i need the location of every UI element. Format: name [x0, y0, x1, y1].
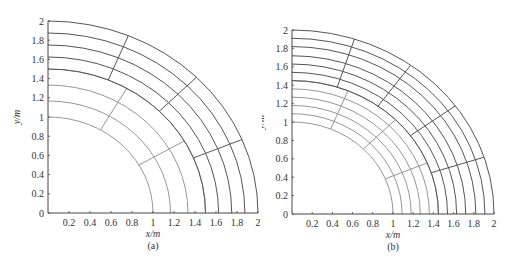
- y-tick-label: 0.8: [32, 131, 45, 142]
- x-tick-label: 0.2: [306, 218, 319, 229]
- outer-radial-line: [337, 39, 354, 87]
- x-tick-label: 0.4: [84, 217, 97, 228]
- x-tick-label: 2: [492, 218, 497, 229]
- panel-b-quarter-annulus-mesh: 0.20.40.60.811.21.41.61.8200.20.40.60.81…: [262, 0, 514, 265]
- y-tick-label: 1.2: [32, 92, 45, 103]
- x-tick-label: 1.6: [210, 217, 223, 228]
- inner-radial-line: [101, 88, 127, 130]
- inner-arc: [48, 117, 153, 213]
- y-tick-label: 2: [39, 16, 44, 27]
- outer-radial-line: [159, 77, 196, 111]
- x-tick-label: 1.4: [189, 217, 202, 228]
- outer-arc: [48, 21, 258, 213]
- y-tick-label: 0.8: [276, 135, 289, 146]
- y-tick-label: 1.8: [276, 43, 289, 54]
- outer-arc: [48, 33, 245, 213]
- y-tick-label: 1.6: [276, 61, 289, 72]
- outer-arc: [48, 45, 232, 213]
- y-tick-label: 0.2: [32, 188, 45, 199]
- x-tick-label: 0.4: [326, 218, 339, 229]
- y-tick-label: 2: [283, 25, 288, 36]
- y-tick-label: 0.4: [32, 169, 45, 180]
- y-axis-label: y/m: [262, 115, 266, 130]
- x-axis-label: x/m: [145, 228, 160, 239]
- x-axis-label: x/m: [385, 229, 400, 240]
- x-tick-label: 0.6: [346, 218, 359, 229]
- outer-radial-line: [378, 65, 411, 106]
- y-tick-label: 1: [39, 112, 44, 123]
- x-tick-label: 0.8: [126, 217, 139, 228]
- y-tick-label: 0: [283, 209, 288, 220]
- outer-radial-line: [410, 106, 455, 136]
- panel-a-quarter-annulus-mesh: 0.20.40.60.811.21.41.61.8200.20.40.60.81…: [0, 0, 262, 265]
- x-tick-label: 1: [151, 217, 156, 228]
- x-tick-label: 0.2: [63, 217, 76, 228]
- x-tick-label: 1.8: [468, 218, 481, 229]
- inner-arc: [48, 101, 171, 213]
- mesh-plot-b: 0.20.40.60.811.21.41.61.8200.20.40.60.81…: [262, 0, 514, 265]
- y-tick-label: 1.2: [276, 98, 289, 109]
- y-tick-label: 0.4: [276, 172, 289, 183]
- y-tick-label: 1: [283, 117, 288, 128]
- x-tick-label: 1.4: [427, 218, 440, 229]
- y-tick-label: 1.4: [276, 80, 289, 91]
- x-tick-label: 0.6: [105, 217, 118, 228]
- x-tick-label: 1.2: [407, 218, 420, 229]
- x-tick-label: 1.2: [168, 217, 181, 228]
- inner-radial-line: [363, 120, 395, 149]
- x-tick-label: 1: [391, 218, 396, 229]
- inner-arc: [292, 97, 420, 214]
- panel-caption: (a): [147, 240, 158, 252]
- x-tick-label: 0.8: [367, 218, 380, 229]
- outer-radial-line: [431, 157, 484, 173]
- y-tick-label: 1.6: [32, 54, 45, 65]
- x-tick-label: 1.6: [447, 218, 460, 229]
- y-tick-label: 0.2: [276, 190, 289, 201]
- y-axis-label: y/m: [11, 110, 22, 125]
- y-tick-label: 1.8: [32, 35, 45, 46]
- panel-caption: (b): [387, 241, 399, 253]
- inner-radial-line: [139, 141, 184, 165]
- x-tick-label: 2: [256, 217, 261, 228]
- mesh-plot-a: 0.20.40.60.811.21.41.61.8200.20.40.60.81…: [0, 0, 262, 265]
- y-tick-label: 0: [39, 208, 44, 219]
- x-tick-label: 1.8: [231, 217, 244, 228]
- y-tick-label: 0.6: [276, 153, 289, 164]
- y-tick-label: 1.4: [32, 73, 45, 84]
- y-tick-label: 0.6: [32, 150, 45, 161]
